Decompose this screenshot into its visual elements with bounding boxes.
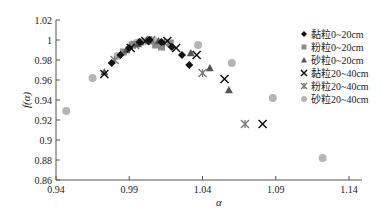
legend-label: 砂粒0~20cm	[311, 54, 364, 66]
x-marker	[259, 120, 267, 128]
circle-marker	[269, 94, 277, 102]
legend-item: 粉粒0~20cm	[302, 41, 364, 53]
diamond-marker	[185, 61, 193, 69]
y-tick-label: 0.9	[40, 135, 53, 146]
diamond-marker	[301, 31, 307, 37]
x-tick-label: 1.14	[340, 184, 358, 195]
legend-label: 砂粒20~40cm	[311, 93, 369, 105]
triangle-marker	[206, 64, 214, 71]
x-tick-label: 1.09	[267, 184, 285, 195]
scatter-chart: 1.0210.980.960.940.920.90.880.860.940.99…	[0, 0, 381, 212]
y-tick-label: 0.88	[35, 155, 53, 166]
legend-label: 粉粒0~20cm	[311, 41, 364, 53]
circle-marker	[301, 96, 307, 102]
star-marker	[301, 83, 307, 89]
legend-label: 黏粒20~40cm	[311, 67, 369, 79]
legend-item: 黏粒20~40cm	[301, 67, 369, 79]
x-marker	[301, 70, 307, 76]
legend: 黏粒0~20cm粉粒0~20cm砂粒0~20cm黏粒20~40cm粉粒20~40…	[301, 28, 369, 105]
y-tick-label: 0.94	[35, 95, 53, 106]
star-marker	[241, 120, 249, 128]
x-tick-label: 0.99	[121, 184, 139, 195]
legend-item: 砂粒20~40cm	[301, 93, 369, 105]
y-tick-label: 1	[47, 35, 52, 46]
legend-item: 砂粒0~20cm	[301, 54, 364, 66]
square-marker	[302, 45, 307, 50]
circle-marker	[194, 41, 202, 49]
triangle-marker	[301, 57, 307, 62]
y-tick-label: 0.98	[35, 55, 53, 66]
diamond-marker	[178, 51, 186, 59]
circle-marker	[62, 107, 70, 115]
series-0	[108, 36, 194, 69]
x-axis-title: α	[216, 196, 222, 208]
legend-label: 粉粒20~40cm	[311, 80, 369, 92]
x-tick-label: 1.04	[194, 184, 212, 195]
triangle-marker	[225, 86, 233, 93]
circle-marker	[89, 74, 97, 82]
star-marker	[199, 69, 207, 77]
y-axis-title: f(α)	[20, 92, 33, 108]
legend-item: 黏粒0~20cm	[301, 28, 364, 40]
x-marker	[220, 75, 228, 83]
y-tick-label: 1.02	[35, 15, 53, 26]
legend-label: 黏粒0~20cm	[311, 28, 364, 40]
y-tick-label: 0.92	[35, 115, 53, 126]
legend-item: 粉粒20~40cm	[301, 80, 369, 92]
data-points	[62, 36, 326, 162]
circle-marker	[319, 154, 327, 162]
circle-marker	[228, 59, 236, 67]
y-tick-label: 0.96	[35, 75, 53, 86]
x-tick-label: 0.94	[47, 184, 65, 195]
